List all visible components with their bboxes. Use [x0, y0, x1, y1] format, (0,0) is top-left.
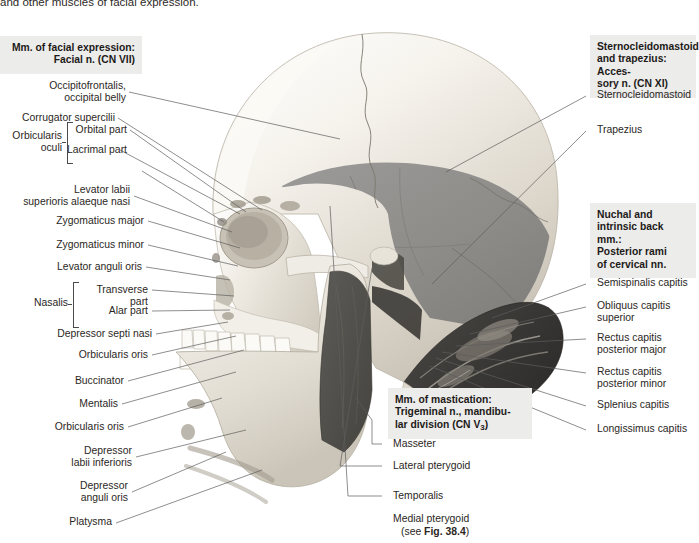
- label-longissimus-capitis: Longissimus capitis: [597, 423, 697, 435]
- header-nuchal-line2: intrinsic back mm.:: [597, 221, 689, 246]
- header-nuchal-line4: of cervical nn.: [597, 259, 689, 271]
- label-orbicularis-oris-upper: Orbicularis oris: [0, 349, 148, 361]
- label-mentalis: Mentalis: [0, 398, 118, 410]
- label-depressor-anguli-oris: Depressor anguli oris: [0, 480, 128, 504]
- top-caption: and other muscles of facial expression.: [0, 0, 420, 8]
- header-mastication: Mm. of mastication: Trigeminal n., mandi…: [388, 388, 532, 439]
- label-semispinalis-capitis: Semispinalis capitis: [597, 277, 697, 289]
- label-trapezius: Trapezius: [597, 124, 697, 136]
- bracket-orbicularis-oculi: [67, 122, 73, 164]
- label-occipitofrontalis: Occipitofrontalis, occipital belly: [0, 80, 126, 104]
- leader-lines-left: [116, 92, 340, 523]
- header-mastication-v3-subscript: 3: [480, 423, 484, 432]
- label-sternocleidomastoid: Sternocleidomastoid: [597, 89, 697, 101]
- header-nuchal-line3: Posterior rami: [597, 246, 689, 258]
- label-rectus-capitis-posterior-minor: Rectus capitis posterior minor: [597, 366, 697, 390]
- header-mastication-line3: lar division (CN V3): [395, 419, 525, 432]
- header-facial-line1: Mm. of facial expression:: [7, 42, 135, 54]
- figure-ref-close: ): [466, 526, 469, 537]
- header-scm-line1: Sternocleidomastoid: [597, 41, 689, 53]
- header-mastication-line3b: ): [485, 419, 488, 430]
- header-facial-line2: Facial n. (CN VII): [7, 54, 135, 66]
- figure-ref-open: (see: [401, 526, 424, 537]
- bracket-point-orbicularis-oculi: [62, 142, 66, 143]
- leader-lines-mastication: [330, 206, 382, 496]
- label-rectus-capitis-posterior-major: Rectus capitis posterior major: [597, 332, 697, 356]
- label-medial-pterygoid: Medial pterygoid: [393, 513, 543, 525]
- label-temporalis: Temporalis: [393, 490, 533, 502]
- header-mastication-line1: Mm. of mastication:: [395, 394, 525, 406]
- label-lateral-pterygoid: Lateral pterygoid: [393, 460, 533, 472]
- header-nuchal-line1: Nuchal and: [597, 209, 689, 221]
- label-platysma: Platysma: [0, 516, 112, 528]
- label-zygomaticus-major: Zygomaticus major: [0, 215, 144, 227]
- header-scm-line2: and trapezius: Acces-: [597, 53, 689, 78]
- label-alar-part: Alar part: [0, 305, 148, 317]
- label-medial-pterygoid-figure-reference: (see Fig. 38.4): [401, 526, 551, 538]
- header-nuchal-intrinsic-back: Nuchal and intrinsic back mm.: Posterior…: [590, 203, 696, 278]
- header-mastication-line3a: lar division (CN V: [395, 419, 480, 430]
- label-depressor-labii-inferioris: Depressor labii inferioris: [0, 445, 132, 469]
- leader-lines-right: [430, 96, 586, 430]
- label-obliquus-capitis-superior: Obliquus capitis superior: [597, 300, 697, 324]
- label-corrugator-supercilii: Corrugator supercilii: [0, 112, 115, 124]
- label-zygomaticus-minor: Zygomaticus minor: [0, 239, 144, 251]
- label-buccinator: Buccinator: [0, 375, 124, 387]
- label-levator-anguli-oris: Levator anguli oris: [0, 261, 142, 273]
- label-splenius-capitis: Splenius capitis: [597, 399, 697, 411]
- header-facial-expression: Mm. of facial expression: Facial n. (CN …: [0, 36, 142, 74]
- label-levator-labii-superioris-alaeque-nasi: Levator labii superioris alaeque nasi: [0, 184, 130, 208]
- label-masseter: Masseter: [393, 438, 533, 450]
- label-orbicularis-oris-lower: Orbicularis oris: [0, 421, 124, 433]
- header-mastication-line2: Trigeminal n., mandibu-: [395, 406, 525, 418]
- figure-ref-number: Fig. 38.4: [424, 526, 466, 537]
- label-depressor-septi-nasi: Depressor septi nasi: [0, 328, 152, 340]
- label-orbicularis-oculi: Orbicularis oculi: [0, 130, 62, 154]
